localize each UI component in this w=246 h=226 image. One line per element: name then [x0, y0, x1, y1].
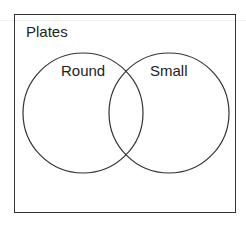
set-label-small: Small — [150, 62, 188, 79]
set-label-round: Round — [61, 62, 105, 79]
universe-label: Plates — [26, 23, 68, 40]
